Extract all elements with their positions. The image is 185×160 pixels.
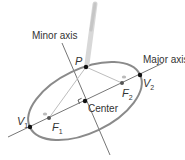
point-p-label: P [75, 55, 83, 67]
pencil-icon [87, 4, 95, 64]
center-label: Center [88, 103, 119, 114]
focus-f2-label: F2 [122, 87, 133, 101]
vertex-v1-label: V1 [17, 115, 28, 129]
minor-axis-label: Minor axis [32, 30, 78, 41]
vertex-v1 [28, 125, 32, 129]
focus-f2 [120, 81, 124, 85]
string-p-f2 [86, 67, 122, 83]
vertex-v2 [138, 73, 142, 77]
ellipse-diagram: Minor axis Major axis P Center V1 V2 F1 … [0, 0, 185, 160]
focus-f1-label: F1 [52, 121, 63, 135]
major-axis-label: Major axis [143, 54, 185, 65]
focus-f1 [47, 116, 51, 120]
point-p [84, 65, 88, 69]
pin-icon-f1 [43, 113, 47, 116]
pin-icon-f2 [122, 76, 126, 79]
vertex-v2-label: V2 [143, 77, 154, 91]
center-point [83, 99, 87, 103]
